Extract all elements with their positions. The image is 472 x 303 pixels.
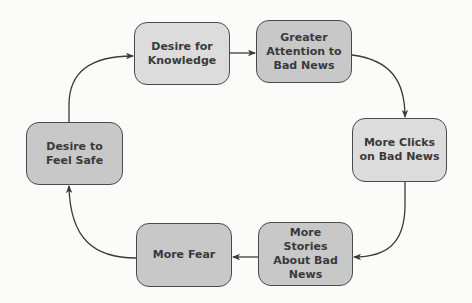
arrow-attention-to-clicks xyxy=(352,55,405,117)
node-desire-to-feel-safe: Desire to Feel Safe xyxy=(26,122,123,185)
node-more-stories: More Stories About Bad News xyxy=(258,222,353,286)
arrow-clicks-to-stories xyxy=(354,182,405,257)
node-more-clicks: More Clicks on Bad News xyxy=(352,118,447,182)
arrow-fear-to-safe xyxy=(69,186,136,258)
node-more-fear: More Fear xyxy=(136,223,232,287)
feedback-loop-diagram: Desire for Knowledge Greater Attention t… xyxy=(0,0,472,303)
arrow-safe-to-knowledge xyxy=(69,56,133,122)
node-desire-for-knowledge: Desire for Knowledge xyxy=(134,22,230,85)
node-greater-attention: Greater Attention to Bad News xyxy=(256,20,352,83)
